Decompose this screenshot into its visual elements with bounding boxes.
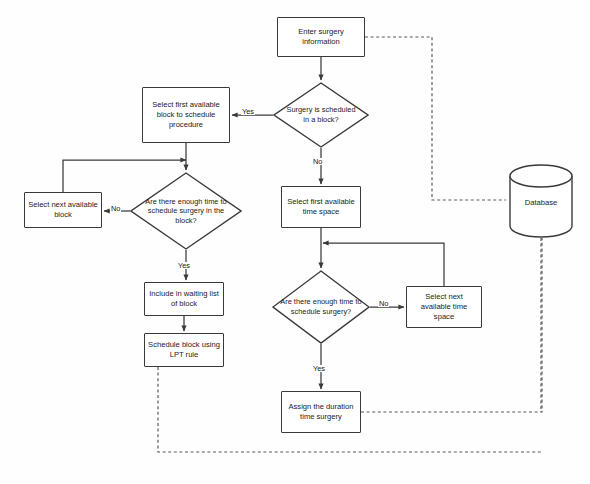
node-label: Select first available block to schedule… [146, 100, 226, 130]
node-enough-time-surgery-decision[interactable]: Are there enough time to schedule surger… [272, 270, 370, 344]
node-label: Database [508, 198, 574, 207]
node-label: Select next available time space [410, 292, 478, 322]
node-database[interactable]: Database [508, 164, 574, 238]
node-label: Are there enough time to schedule surger… [138, 186, 234, 236]
node-enough-time-in-block-decision[interactable]: Are there enough time to schedule surger… [130, 172, 242, 250]
edge-label-yes-block: Yes [241, 108, 255, 115]
node-select-next-available-block[interactable]: Select next available block [24, 192, 102, 228]
node-include-in-waiting-list[interactable]: Include in waiting list of block [144, 282, 224, 316]
node-label: Schedule block using LPT rule [148, 340, 220, 360]
edge-label-no-enough-time-surgery: No [378, 300, 389, 307]
edge-label-yes-enough-time-block: Yes [177, 262, 191, 269]
edge-label-no-block: No [312, 158, 323, 165]
node-assign-duration-time-surgery[interactable]: Assign the duration time surgery [281, 391, 361, 433]
node-label: Assign the duration time surgery [285, 402, 357, 422]
node-label: Select first available time space [285, 197, 357, 217]
node-select-next-available-time-space[interactable]: Select next available time space [406, 286, 482, 328]
node-schedule-block-lpt[interactable]: Schedule block using LPT rule [144, 333, 224, 367]
node-label: Select next available block [28, 200, 98, 220]
node-select-first-available-block[interactable]: Select first available block to schedule… [142, 87, 230, 143]
edge-label-yes-enough-time-surgery: Yes [312, 365, 326, 372]
node-enter-surgery-information[interactable]: Enter surgery information [277, 17, 365, 57]
node-label: Are there enough time to schedule surger… [278, 286, 364, 328]
node-select-first-available-time-space[interactable]: Select first available time space [281, 186, 361, 228]
flowchart-canvas: Enter surgery information Select first a… [0, 0, 590, 484]
node-label: Surgery is scheduled in a block? [283, 92, 359, 138]
node-surgery-scheduled-in-block-decision[interactable]: Surgery is scheduled in a block? [273, 82, 369, 148]
edge-label-no-enough-time-block: No [110, 205, 121, 212]
edge-enter-to-database [365, 37, 506, 200]
node-label: Enter surgery information [281, 27, 361, 47]
node-label: Include in waiting list of block [148, 289, 220, 309]
